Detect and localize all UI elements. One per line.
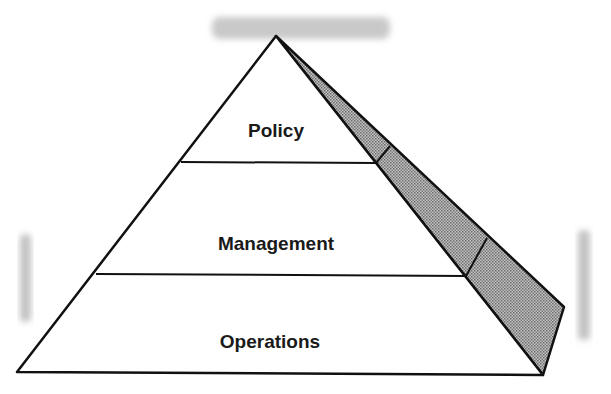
left-smudge <box>20 234 31 322</box>
divider-policy-management <box>181 162 376 163</box>
level-label-operations: Operations <box>220 331 320 353</box>
pyramid-front-face <box>17 36 543 375</box>
right-smudge <box>578 230 590 340</box>
pyramid-diagram: Policy Management Operations <box>0 0 611 394</box>
level-label-management: Management <box>218 233 334 255</box>
level-label-policy: Policy <box>248 120 304 142</box>
top-smudge <box>212 17 390 39</box>
